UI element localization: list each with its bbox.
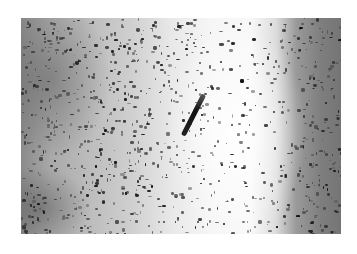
nucleus-speck: [330, 65, 334, 68]
nucleus-speck: [149, 147, 152, 150]
nucleus-speck: [139, 179, 140, 180]
nucleus-speck: [285, 68, 286, 72]
nucleus-speck: [166, 123, 168, 125]
nucleus-speck: [317, 80, 321, 82]
nucleus-speck: [200, 119, 201, 121]
nucleus-speck: [95, 182, 99, 185]
nucleus-speck: [79, 146, 81, 148]
nucleus-speck: [254, 226, 257, 229]
nucleus-speck: [127, 152, 128, 154]
nucleus-speck: [53, 134, 56, 136]
nucleus-speck: [232, 25, 235, 28]
nucleus-speck: [314, 185, 315, 186]
nucleus-speck: [94, 185, 98, 186]
nucleus-speck: [304, 123, 307, 124]
nucleus-speck: [209, 220, 211, 223]
nucleus-speck: [283, 215, 287, 218]
nucleus-speck: [30, 184, 33, 187]
nucleus-speck: [229, 166, 230, 168]
nucleus-speck: [114, 39, 117, 41]
nucleus-speck: [309, 36, 312, 39]
nucleus-speck: [21, 217, 23, 220]
nucleus-speck: [130, 141, 134, 144]
nucleus-speck: [106, 36, 108, 39]
nucleus-speck: [234, 165, 238, 168]
nucleus-speck: [52, 32, 54, 34]
nucleus-speck: [219, 31, 223, 32]
nucleus-speck: [335, 62, 339, 65]
nucleus-speck: [140, 90, 142, 91]
nucleus-speck: [316, 206, 319, 209]
nucleus-speck: [127, 51, 129, 55]
nucleus-speck: [23, 54, 25, 56]
nucleus-speck: [195, 226, 196, 229]
nucleus-speck: [203, 178, 205, 179]
nucleus-speck: [232, 114, 233, 118]
nucleus-speck: [329, 132, 332, 133]
nucleus-speck: [32, 221, 34, 224]
nucleus-speck: [254, 198, 257, 199]
nucleus-speck: [160, 69, 164, 71]
nucleus-speck: [321, 130, 325, 132]
nucleus-speck: [21, 92, 24, 95]
nucleus-speck: [41, 49, 45, 52]
nucleus-speck: [277, 201, 278, 203]
nucleus-speck: [314, 216, 317, 218]
nucleus-speck: [27, 74, 29, 76]
nucleus-speck: [263, 197, 266, 200]
nucleus-speck: [49, 230, 51, 233]
nucleus-speck: [90, 125, 93, 128]
nucleus-speck: [192, 82, 194, 84]
nucleus-speck: [322, 88, 325, 91]
nucleus-speck: [164, 143, 167, 144]
nucleus-speck: [77, 109, 80, 112]
nucleus-speck: [186, 163, 187, 164]
nucleus-speck: [47, 126, 50, 128]
nucleus-speck: [309, 100, 310, 101]
nucleus-speck: [292, 188, 295, 190]
nucleus-speck: [321, 44, 324, 45]
nucleus-speck: [153, 65, 156, 68]
nucleus-speck: [252, 133, 255, 136]
nucleus-speck: [105, 46, 109, 49]
nucleus-speck: [171, 192, 174, 195]
nucleus-speck: [239, 65, 242, 67]
nucleus-speck: [27, 23, 31, 25]
nucleus-speck: [175, 91, 177, 94]
nucleus-speck: [275, 60, 277, 63]
nucleus-speck: [176, 154, 178, 156]
nucleus-speck: [185, 71, 189, 74]
nucleus-speck: [107, 119, 109, 123]
nucleus-speck: [242, 103, 245, 105]
nucleus-speck: [157, 144, 159, 145]
nucleus-speck: [315, 61, 316, 63]
nucleus-speck: [110, 70, 114, 72]
nucleus-speck: [175, 221, 177, 224]
nucleus-speck: [151, 118, 155, 119]
nucleus-speck: [141, 134, 145, 136]
nucleus-speck: [152, 231, 153, 234]
nucleus-speck: [151, 185, 153, 188]
nucleus-speck: [144, 126, 147, 129]
nucleus-speck: [181, 211, 184, 214]
nucleus-speck: [202, 226, 204, 229]
nucleus-speck: [332, 167, 335, 169]
nucleus-speck: [191, 52, 194, 53]
nucleus-speck: [86, 194, 89, 197]
nucleus-speck: [132, 85, 136, 87]
nucleus-speck: [21, 131, 24, 133]
nucleus-speck: [185, 48, 188, 50]
nucleus-speck: [245, 205, 248, 207]
nucleus-speck: [31, 216, 35, 219]
nucleus-speck: [306, 139, 308, 140]
nucleus-speck: [301, 23, 305, 25]
nucleus-speck: [155, 25, 157, 28]
nucleus-speck: [306, 184, 309, 185]
nucleus-speck: [223, 223, 225, 225]
nucleus-speck: [281, 46, 285, 49]
nucleus-speck: [259, 163, 260, 165]
nucleus-speck: [323, 207, 326, 210]
nucleus-speck: [160, 231, 162, 233]
nucleus-speck: [301, 65, 303, 67]
nucleus-speck: [167, 146, 171, 149]
